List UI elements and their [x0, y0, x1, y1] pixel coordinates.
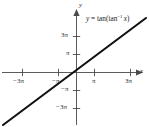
x-tick-label-negpi: −π	[52, 78, 59, 85]
x-axis-label: x	[140, 68, 143, 75]
y-axis-arrowhead	[73, 9, 79, 16]
x-tick-label-pi: π	[92, 78, 96, 85]
equation-lhs: y	[86, 14, 89, 23]
equation-rhs-exponent: −1	[117, 14, 122, 19]
y-axis-label: y	[79, 2, 82, 9]
y-tick-label-pi: π	[66, 50, 70, 57]
x-tick-label-neg3pi: −3π	[13, 78, 24, 85]
y-tick-label-3pi: 3π	[61, 32, 68, 39]
equation-rhs-prefix: tan(tan	[97, 14, 117, 23]
equation-rhs-suffix: )	[127, 14, 129, 23]
y-tick-label-neg3pi: −3π	[56, 104, 67, 111]
x-tick-label-3pi: 3π	[125, 78, 132, 85]
y-tick-label-negpi: −π	[61, 86, 68, 93]
equation-annotation: y = tan(tan−1x)	[86, 14, 129, 23]
equation-equals: =	[91, 14, 95, 23]
